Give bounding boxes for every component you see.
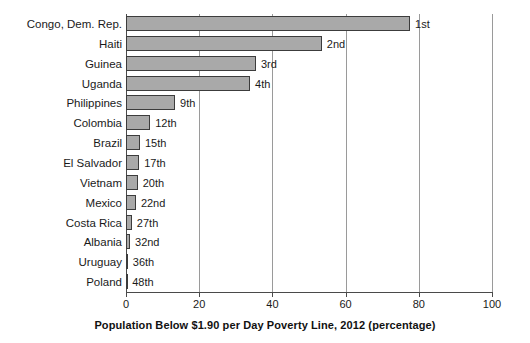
bar-rank-label: 20th	[143, 176, 164, 190]
bar-rank-label: 17th	[144, 156, 165, 170]
bar-row[interactable]: 15th	[126, 133, 492, 153]
bar-row[interactable]: 2nd	[126, 34, 492, 54]
category-label: Uruguay	[2, 255, 122, 269]
bar[interactable]	[126, 195, 136, 210]
x-tick-label: 100	[472, 298, 512, 311]
bar-rank-label: 4th	[255, 77, 270, 91]
bar[interactable]	[126, 16, 410, 31]
bar[interactable]	[126, 155, 139, 170]
bar-row[interactable]: 36th	[126, 252, 492, 272]
bar[interactable]	[126, 135, 140, 150]
bar[interactable]	[126, 115, 150, 130]
category-label: Vietnam	[2, 176, 122, 190]
bar-chart-figure: Congo, Dem. Rep.HaitiGuineaUgandaPhilipp…	[0, 0, 530, 343]
bar-row[interactable]: 3rd	[126, 54, 492, 74]
category-label: Brazil	[2, 136, 122, 150]
bar[interactable]	[126, 234, 130, 249]
bar-rank-label: 1st	[415, 17, 430, 31]
category-label: Costa Rica	[2, 216, 122, 230]
bar-rank-label: 27th	[137, 216, 158, 230]
bar-row[interactable]: 12th	[126, 113, 492, 133]
bar[interactable]	[126, 76, 250, 91]
x-tick-mark	[492, 292, 493, 297]
x-tick-mark	[199, 292, 200, 297]
bar-rank-label: 15th	[145, 136, 166, 150]
x-axis-title: Population Below $1.90 per Day Poverty L…	[0, 319, 530, 331]
x-tick-label: 40	[252, 298, 292, 311]
bar[interactable]	[126, 254, 128, 269]
bar[interactable]	[126, 274, 128, 289]
bar-row[interactable]: 32nd	[126, 232, 492, 252]
bar-rank-label: 2nd	[327, 37, 345, 51]
x-axis-line	[126, 292, 493, 293]
bar-row[interactable]: 1st	[126, 14, 492, 34]
bar-row[interactable]: 48th	[126, 272, 492, 292]
bar-rank-label: 9th	[180, 96, 195, 110]
x-tick-mark	[126, 292, 127, 297]
plot-area: 1st2nd3rd4th9th12th15th17th20th22nd27th3…	[126, 14, 492, 292]
bar-rank-label: 12th	[155, 116, 176, 130]
bar[interactable]	[126, 215, 132, 230]
bar-row[interactable]: 17th	[126, 153, 492, 173]
category-axis: Congo, Dem. Rep.HaitiGuineaUgandaPhilipp…	[0, 14, 122, 292]
x-tick-label: 60	[326, 298, 366, 311]
bar-rank-label: 32nd	[135, 235, 159, 249]
bar-row[interactable]: 9th	[126, 93, 492, 113]
bar[interactable]	[126, 175, 138, 190]
grid-line	[492, 14, 493, 292]
bar[interactable]	[126, 56, 256, 71]
category-label: Albania	[2, 235, 122, 249]
bar-row[interactable]: 22nd	[126, 193, 492, 213]
x-tick-label: 80	[399, 298, 439, 311]
bar-row[interactable]: 27th	[126, 213, 492, 233]
x-tick-mark	[272, 292, 273, 297]
x-tick-mark	[419, 292, 420, 297]
category-label: Philippines	[2, 96, 122, 110]
bar-rank-label: 48th	[132, 275, 153, 289]
category-label: Congo, Dem. Rep.	[2, 17, 122, 31]
bar-row[interactable]: 20th	[126, 173, 492, 193]
x-tick-label: 0	[106, 298, 146, 311]
bar-row[interactable]: 4th	[126, 74, 492, 94]
x-tick-mark	[346, 292, 347, 297]
category-label: Mexico	[2, 196, 122, 210]
category-label: Guinea	[2, 57, 122, 71]
x-tick-label: 20	[179, 298, 219, 311]
category-label: El Salvador	[2, 156, 122, 170]
bar-rank-label: 3rd	[261, 57, 277, 71]
category-label: Haiti	[2, 37, 122, 51]
bar[interactable]	[126, 95, 175, 110]
bar[interactable]	[126, 36, 322, 51]
bar-rank-label: 36th	[133, 255, 154, 269]
bar-rank-label: 22nd	[141, 196, 165, 210]
category-label: Poland	[2, 275, 122, 289]
category-label: Uganda	[2, 77, 122, 91]
category-label: Colombia	[2, 116, 122, 130]
